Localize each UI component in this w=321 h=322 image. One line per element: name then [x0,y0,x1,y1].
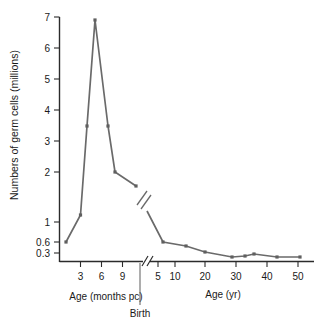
x-tick-label-50yr: 50 [292,271,304,282]
x-axis-ticks-postnatal [158,262,298,268]
data-series-postnatal [147,211,302,259]
germ-cell-chart: 7 6 5 4 3 2 1 0.6 0.3 Numbers of germ ce… [0,0,321,322]
y-axis: 7 6 5 4 3 2 1 0.6 0.3 Numbers of germ ce… [8,12,60,262]
y-tick-label-4: 4 [44,105,50,116]
y-axis-ticks [54,17,60,253]
data-series-prenatal [64,18,137,243]
y-axis-title: Numbers of germ cells (millions) [8,50,20,200]
y-tick-label-7: 7 [44,12,50,23]
x-tick-label-20yr: 20 [199,271,211,282]
y-tick-label-1: 1 [44,217,50,228]
birth-label: Birth [130,308,151,319]
y-tick-label-0-6: 0.6 [36,237,50,248]
y-tick-label-5: 5 [44,74,50,85]
data-line-break-icon [137,188,151,210]
y-tick-label-2: 2 [44,167,50,178]
x-axis-title-postnatal: Age (yr) [205,289,241,300]
x-tick-label-30yr: 30 [230,271,242,282]
x-tick-label-10yr: 10 [169,271,181,282]
x-tick-label-40yr: 40 [261,271,273,282]
data-markers-postnatal [161,240,301,258]
x-tick-label-5yr: 5 [155,271,161,282]
x-axis-title-prenatal: Age (months pc) [69,291,142,302]
x-tick-label-9months: 9 [120,271,126,282]
x-tick-label-3months: 3 [78,271,84,282]
x-axis-ticks-prenatal [81,262,123,268]
data-markers-prenatal [64,18,137,243]
y-tick-label-6: 6 [44,43,50,54]
x-tick-label-6months: 6 [99,271,105,282]
y-tick-label-3: 3 [44,136,50,147]
y-tick-label-0-3: 0.3 [36,248,50,259]
x-axis: 3 6 9 5 10 20 30 40 50 Age (months pc) A… [60,256,315,302]
